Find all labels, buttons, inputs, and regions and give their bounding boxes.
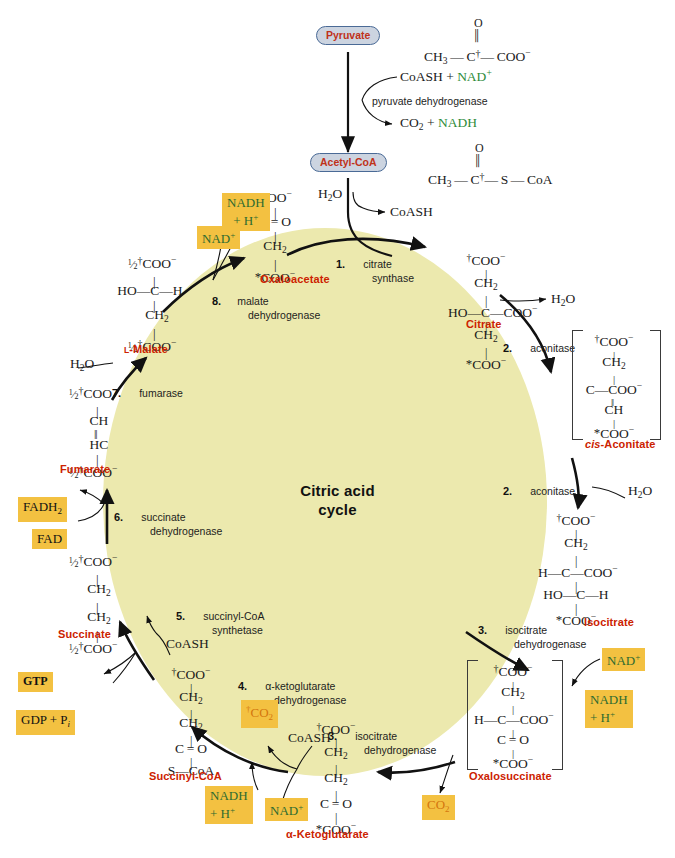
- oxalosuccinate-formula: †COO− | CH2 | H—C—COO− | C = O | *COO−: [474, 658, 552, 774]
- citric-acid-cycle-diagram: Citric acid cycle: [0, 0, 675, 858]
- alpha-ketoglutarate-name: α-Ketoglutarate: [286, 828, 369, 840]
- cis-aconitate-name: cis-Aconitate: [585, 438, 655, 450]
- pdh-reactants: CoASH + NAD+: [400, 66, 492, 84]
- h2o-citrate-synthase: H2O: [318, 186, 342, 206]
- succinate-formula: 1⁄2†COO− | CH2 | CH2 | 1⁄2†COO−: [55, 546, 131, 664]
- pyruvate-label: Pyruvate: [326, 29, 370, 41]
- citrate-name: Citrate: [466, 318, 502, 330]
- succinyl-coa-name: Succinyl-CoA: [149, 770, 222, 782]
- nadh-h-box-step3: NADH + H+: [585, 690, 633, 728]
- fadh2-box: FADH2: [18, 497, 67, 522]
- step-5: 5. succinyl-CoA synthetase: [176, 606, 264, 637]
- acetyl-coa-pill: Acetyl-CoA: [310, 153, 387, 172]
- fad-box: FAD: [32, 529, 67, 549]
- citrate-formula: †COO− | CH2 | HO—C—COO− | CH2 | *COO−: [448, 246, 524, 376]
- co2-box-step4: †CO2: [241, 700, 278, 728]
- isocitrate-formula: †COO− | CH2 | H—C—COO− | HO—C—H | *COO−: [538, 506, 614, 632]
- nad-box-step4: NAD+: [265, 798, 308, 821]
- oxalosuccinate-name: Oxalosuccinate: [469, 770, 552, 782]
- cis-aconitate-bracket-right: [650, 330, 661, 440]
- nad-box-step3: NAD+: [602, 648, 645, 671]
- succinate-name: Succinate: [58, 628, 111, 640]
- step-2b: 2. aconitase: [503, 481, 575, 499]
- acetyl-coa-label: Acetyl-CoA: [320, 156, 377, 168]
- nadh-h-box-step4: NADH + H+: [205, 786, 253, 824]
- isocitrate-name: Isocitrate: [584, 616, 634, 628]
- pyruvate-pill: Pyruvate: [316, 26, 380, 45]
- coash-step5: CoASH: [166, 636, 209, 651]
- pyruvate-dehydrogenase-label: pyruvate dehydrogenase: [372, 95, 488, 108]
- step-8: 8. malate dehydrogenase: [212, 291, 320, 322]
- co2-box-step3: CO2: [422, 795, 455, 820]
- h2o-fumarase: H2O: [70, 356, 94, 376]
- pdh-products: CO2 + NADH: [400, 115, 477, 135]
- pyruvate-formula: O ║ CH3 — C†— COO−: [424, 18, 531, 69]
- step-3a: 3. isocitrate dehydrogenase: [478, 620, 586, 651]
- succinyl-coa-formula: †COO− | CH2 | CH2 | C = O | S—CoA: [152, 660, 230, 782]
- step-1: 1. citrate synthase: [336, 254, 414, 285]
- fumarate-name: Fumarate: [60, 463, 110, 475]
- cis-aconitate-formula: †COO− | CH2 | C—COO− ‖ CH | *COO−: [578, 328, 650, 444]
- step-6: 6. succinate dehydrogenase: [114, 507, 222, 538]
- gdp-pi-box: GDP + Pi: [16, 710, 75, 735]
- coash-step4: CoASH: [288, 730, 331, 745]
- step-7: 7. fumarase: [112, 383, 183, 401]
- acetyl-coa-formula: O ║ CH3 — C†— S — CoA: [428, 144, 553, 192]
- gtp-box: GTP: [18, 672, 53, 692]
- step-2a: 2. aconitase: [503, 338, 575, 356]
- oxaloacetate-name: Oxaloacetate: [260, 273, 330, 285]
- nad-box-step8: NAD+: [197, 226, 240, 249]
- coash-citrate-synthase: CoASH: [390, 204, 433, 219]
- h2o-aconitase-2: H2O: [628, 483, 652, 503]
- h2o-aconitase-1: H2O: [551, 291, 575, 311]
- oxalosuccinate-bracket-right: [552, 660, 563, 770]
- l-malate-name: L-Malate: [124, 343, 168, 355]
